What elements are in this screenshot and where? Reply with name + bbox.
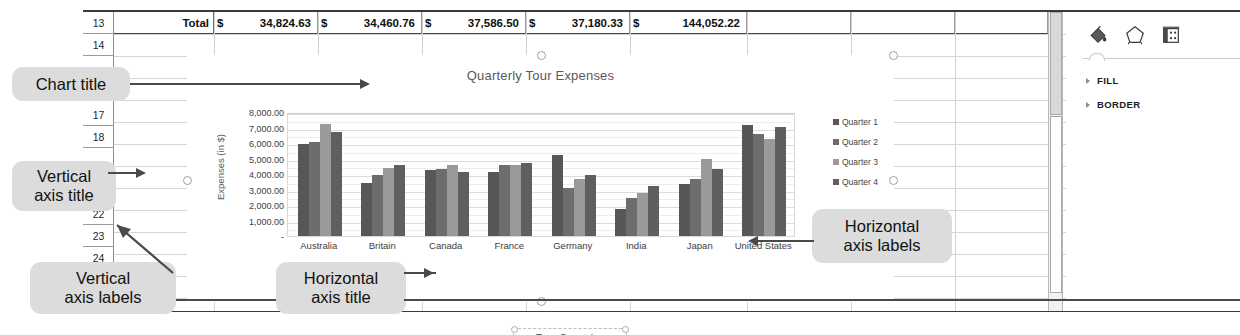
scrollbar-thumb[interactable] — [1050, 116, 1062, 293]
horizontal-axis-title-text: Tour Countries — [536, 332, 604, 335]
callout-valabels-bottom-leader — [176, 299, 276, 301]
legend-item-quarter-3[interactable]: Quarter 3 — [833, 152, 895, 172]
bar-group-australia[interactable] — [288, 113, 352, 236]
bar-quarter-4[interactable] — [458, 172, 469, 236]
bar-quarter-1[interactable] — [742, 125, 753, 236]
chevron-right-icon — [1086, 78, 1090, 84]
bar-quarter-2[interactable] — [626, 198, 637, 236]
chart-title[interactable]: Quarterly Tour Expenses — [187, 68, 894, 83]
y-axis-tick-8: - — [281, 232, 284, 242]
bar-quarter-3[interactable] — [637, 193, 648, 236]
bar-quarter-4[interactable] — [585, 175, 596, 236]
bar-quarter-2[interactable] — [436, 169, 447, 236]
bar-quarter-4[interactable] — [775, 127, 786, 236]
legend-item-quarter-1[interactable]: Quarter 1 — [833, 112, 895, 132]
x-axis-label-canada: Canada — [414, 240, 478, 251]
row-header-13[interactable]: 13 — [83, 12, 114, 34]
y-axis-tick-0: 8,000.00 — [249, 108, 284, 118]
plot-area[interactable] — [287, 113, 795, 237]
callout-vertical-axis-labels-line2: axis labels — [64, 288, 141, 307]
bar-group-canada[interactable] — [415, 113, 479, 236]
total-value-q3: 37,586.50 — [438, 17, 525, 29]
row-header-14[interactable]: 14 — [83, 34, 114, 56]
callout-horizontal-axis-labels-line2: axis labels — [843, 236, 920, 255]
bar-group-united-states[interactable] — [733, 113, 796, 236]
legend-item-quarter-2[interactable]: Quarter 2 — [833, 132, 895, 152]
total-cell-empty-2[interactable] — [851, 12, 955, 34]
effects-icon[interactable] — [1160, 24, 1182, 46]
vertical-axis-title[interactable]: Expenses (in $) — [213, 107, 227, 227]
bar-group-germany[interactable] — [542, 113, 606, 236]
callout-chart-title: Chart title — [12, 67, 130, 101]
bar-group-britain[interactable] — [352, 113, 416, 236]
chart-legend[interactable]: Quarter 1Quarter 2Quarter 3Quarter 4 — [833, 112, 895, 192]
bar-quarter-4[interactable] — [712, 169, 723, 236]
bar-group-france[interactable] — [479, 113, 543, 236]
legend-item-quarter-4[interactable]: Quarter 4 — [833, 172, 895, 192]
bar-quarter-3[interactable] — [764, 139, 775, 236]
format-section-border[interactable]: BORDER — [1086, 99, 1141, 110]
chart-handle-top-center[interactable] — [537, 51, 546, 60]
format-pane: FILL BORDER — [1066, 12, 1240, 311]
bar-quarter-1[interactable] — [552, 155, 563, 236]
bar-quarter-3[interactable] — [447, 165, 458, 236]
bar-quarter-1[interactable] — [679, 184, 690, 236]
pentagon-shape-icon[interactable] — [1124, 24, 1146, 46]
format-section-fill[interactable]: FILL — [1086, 75, 1119, 86]
chevron-right-icon — [1086, 102, 1090, 108]
x-axis-label-britain: Britain — [351, 240, 415, 251]
chart-handle-mid-left[interactable] — [183, 176, 192, 185]
bar-quarter-4[interactable] — [648, 186, 659, 236]
resize-handle-tr[interactable] — [622, 326, 629, 333]
resize-handle-tl[interactable] — [511, 326, 518, 333]
y-axis-tick-5: 3,000.00 — [249, 186, 284, 196]
vertical-axis-labels[interactable]: 8,000.007,000.006,000.005,000.004,000.00… — [227, 109, 284, 237]
bar-quarter-4[interactable] — [331, 132, 342, 236]
bar-quarter-2[interactable] — [563, 188, 574, 236]
total-row-label-cell[interactable]: Total — [114, 12, 214, 34]
vertical-scrollbar[interactable] — [1048, 12, 1063, 311]
currency-symbol: $ — [217, 17, 230, 29]
scrollbar-track-upper[interactable] — [1050, 12, 1062, 115]
y-axis-tick-6: 2,000.00 — [249, 201, 284, 211]
total-cell-empty-1[interactable] — [747, 12, 851, 34]
bar-quarter-2[interactable] — [309, 142, 320, 236]
format-pane-divider — [1083, 58, 1240, 59]
bar-quarter-2[interactable] — [690, 179, 701, 236]
spreadsheet-window: 13141718222324 Total $ 34,824.63 $ 34,46… — [83, 10, 1240, 312]
fill-bucket-icon[interactable] — [1088, 24, 1110, 46]
bar-quarter-3[interactable] — [701, 159, 712, 236]
bar-quarter-1[interactable] — [615, 209, 626, 236]
total-cell-empty-3[interactable] — [955, 12, 1048, 34]
horizontal-axis-title[interactable]: Tour Countries — [513, 328, 627, 335]
bar-quarter-2[interactable] — [372, 175, 383, 236]
chart-handle-mid-right[interactable] — [889, 176, 898, 185]
format-pane-toolbar — [1088, 24, 1182, 46]
bar-quarter-3[interactable] — [510, 165, 521, 236]
total-cell-grand[interactable]: $ 144,052.22 — [630, 12, 747, 34]
total-cell-q1[interactable]: $ 34,824.63 — [214, 12, 318, 34]
bar-quarter-1[interactable] — [298, 144, 309, 236]
bar-quarter-3[interactable] — [574, 179, 585, 236]
bar-quarter-2[interactable] — [753, 134, 764, 236]
bar-quarter-3[interactable] — [383, 168, 394, 236]
chart-handle-top-right[interactable] — [889, 51, 898, 60]
bar-quarter-4[interactable] — [521, 163, 532, 236]
bar-quarter-3[interactable] — [320, 124, 331, 236]
total-cell-q4[interactable]: $ 37,180.33 — [526, 12, 630, 34]
row-header-17[interactable]: 17 — [83, 104, 114, 126]
total-cell-q2[interactable]: $ 34,460.76 — [318, 12, 422, 34]
bar-quarter-2[interactable] — [499, 165, 510, 236]
total-cell-q3[interactable]: $ 37,586.50 — [422, 12, 526, 34]
bar-group-india[interactable] — [606, 113, 670, 236]
bar-quarter-1[interactable] — [361, 183, 372, 236]
callout-horizontal-axis-labels-arrowhead — [748, 236, 758, 246]
bar-quarter-1[interactable] — [425, 170, 436, 236]
bar-group-japan[interactable] — [669, 113, 733, 236]
total-label: Total — [182, 17, 209, 29]
bar-quarter-1[interactable] — [488, 172, 499, 236]
row-header-18[interactable]: 18 — [83, 126, 114, 148]
callout-horizontal-axis-labels-leader — [758, 240, 814, 242]
callout-horizontal-axis-labels: Horizontal axis labels — [812, 209, 952, 263]
bar-quarter-4[interactable] — [394, 165, 405, 236]
